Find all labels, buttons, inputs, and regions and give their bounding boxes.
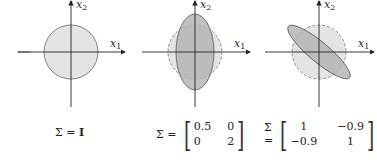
matrix: [ 0.5 0 0 2 ] bbox=[181, 117, 248, 151]
panel-correlated: x1 x2 bbox=[265, 0, 374, 107]
cell: 1 bbox=[290, 120, 317, 133]
left-bracket: [ bbox=[280, 117, 287, 151]
equation-prefix: Σ = bbox=[156, 128, 177, 141]
x2-label: x2 bbox=[200, 0, 211, 12]
equation-prefix: Σ = bbox=[264, 121, 273, 147]
right-bracket: ] bbox=[367, 117, 374, 151]
x2-label: x2 bbox=[324, 0, 335, 12]
equation-diagonal: Σ = [ 0.5 0 0 2 ] bbox=[156, 117, 248, 151]
x2-label: x2 bbox=[76, 0, 87, 12]
x1-label: x1 bbox=[234, 37, 245, 51]
matrix-cells: 1 −0.9 −0.9 1 bbox=[290, 120, 363, 148]
cell: −0.9 bbox=[337, 120, 364, 133]
cell: 1 bbox=[337, 135, 364, 148]
cell: 0 bbox=[227, 120, 234, 133]
left-bracket: [ bbox=[183, 117, 190, 151]
cell: −0.9 bbox=[290, 135, 317, 148]
panel-diagonal: x1 x2 bbox=[142, 0, 250, 107]
x1-label: x1 bbox=[110, 37, 121, 51]
equation-correlated: Σ = [ 1 −0.9 −0.9 1 ] bbox=[264, 117, 377, 151]
cell: 2 bbox=[227, 135, 234, 148]
x1-label: x1 bbox=[358, 37, 369, 51]
equation-identity: Σ = I bbox=[55, 126, 84, 139]
cell: 0.5 bbox=[194, 120, 212, 133]
matrix-cells: 0.5 0 0 2 bbox=[194, 120, 235, 148]
right-bracket: ] bbox=[237, 117, 244, 151]
identity-symbol: I bbox=[79, 126, 84, 139]
panel-identity: x1 x2 bbox=[18, 0, 125, 107]
equation-prefix: Σ = bbox=[55, 126, 76, 139]
cell: 0 bbox=[194, 135, 212, 148]
matrix: [ 1 −0.9 −0.9 1 ] bbox=[277, 117, 377, 151]
